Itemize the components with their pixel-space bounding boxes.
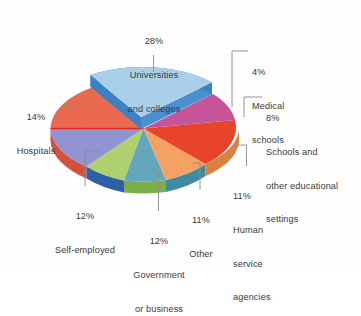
callout-human-service-line3: agencies xyxy=(233,292,303,303)
callout-human-service-percent: 11% xyxy=(233,191,303,202)
callout-hospitals-line1: Hospitals xyxy=(8,146,64,157)
callout-government-line2: or business xyxy=(110,304,208,315)
callout-schools-percent: 8% xyxy=(266,113,361,124)
callout-universities-line2: and colleges xyxy=(96,104,212,115)
callout-schools-line1: Schools and xyxy=(266,147,361,158)
callout-universities-percent: 28% xyxy=(96,36,212,47)
callout-human-service-line2: service xyxy=(233,259,303,270)
callout-universities: 28% Universities and colleges xyxy=(96,14,212,137)
callout-universities-line1: Universities xyxy=(96,70,212,81)
callout-self-employed: 12% Self-employed xyxy=(38,189,132,279)
callout-medical-percent: 4% xyxy=(252,67,352,78)
callout-hospitals-percent: 14% xyxy=(8,112,64,123)
callout-self-employed-line1: Self-employed xyxy=(38,245,132,256)
callout-human-service: 11% Human service agencies xyxy=(233,169,303,316)
callout-hospitals: 14% Hospitals xyxy=(8,90,64,180)
callout-self-employed-percent: 12% xyxy=(38,211,132,222)
callout-human-service-line1: Human xyxy=(233,225,303,236)
